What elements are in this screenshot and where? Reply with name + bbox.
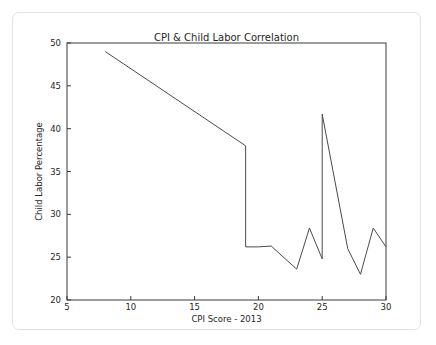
plot-area-border	[67, 43, 386, 300]
x-axis-ticks	[67, 296, 386, 300]
chart-svg: CPI & Child Labor Correlation 5101520253…	[0, 0, 436, 345]
x-axis-title: CPI Score - 2013	[191, 314, 261, 324]
y-axis-ticks	[67, 43, 71, 300]
y-tick-label: 50	[50, 38, 61, 48]
data-series-group	[105, 52, 386, 275]
y-tick-label: 35	[50, 167, 61, 177]
x-tick-label: 15	[189, 302, 200, 312]
y-axis-tick-labels: 20253035404550	[50, 38, 61, 305]
x-tick-label: 20	[253, 302, 264, 312]
data-line-child-labor-percentage	[105, 52, 386, 275]
x-axis-title-group: CPI Score - 2013	[191, 314, 261, 324]
y-tick-label: 20	[50, 295, 61, 305]
y-tick-label: 40	[50, 124, 61, 134]
x-tick-label: 10	[125, 302, 136, 312]
x-tick-label: 30	[381, 302, 392, 312]
y-axis-title: Child Labor Percentage	[34, 122, 44, 221]
x-tick-label: 5	[64, 302, 69, 312]
y-axis-title-group: Child Labor Percentage	[34, 122, 44, 221]
chart-title: CPI & Child Labor Correlation	[154, 32, 299, 43]
y-tick-label: 45	[50, 81, 61, 91]
x-tick-label: 25	[317, 302, 328, 312]
plot-frame	[67, 43, 386, 300]
chart-title-group: CPI & Child Labor Correlation	[154, 32, 299, 43]
x-axis-tick-labels: 51015202530	[64, 302, 391, 312]
y-tick-label: 25	[50, 252, 61, 262]
chart-figure: CPI & Child Labor Correlation 5101520253…	[0, 0, 436, 345]
y-tick-label: 30	[50, 209, 61, 219]
